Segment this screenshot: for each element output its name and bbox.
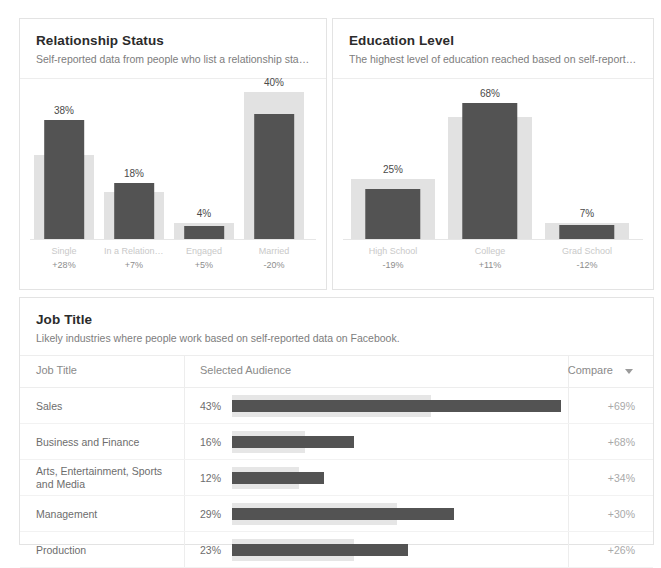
row-compare-value: +68% — [608, 436, 635, 448]
compare-delta-label: +5% — [174, 259, 234, 271]
plot-area: 25%68%7% — [333, 79, 653, 239]
x-axis-tick: In a Relationship+7% — [104, 245, 164, 271]
chevron-down-icon[interactable] — [625, 369, 633, 374]
education-level-card: Education Level The highest level of edu… — [332, 18, 654, 290]
category-label: High School — [351, 245, 435, 257]
insights-page: Relationship Status Self-reported data f… — [0, 0, 661, 568]
column-header-job-title[interactable]: Job Title — [36, 364, 77, 376]
category-label: Grad School — [545, 245, 629, 257]
card-header: Education Level The highest level of edu… — [333, 19, 653, 76]
card-header: Relationship Status Self-reported data f… — [20, 19, 326, 76]
card-subtitle: Likely industries where people work base… — [36, 332, 637, 345]
column-header-compare[interactable]: Compare — [568, 364, 613, 376]
row-compare-value: +34% — [608, 472, 635, 484]
bar-value-label: 25% — [383, 164, 403, 175]
category-label: College — [448, 245, 532, 257]
selected-audience-bar — [114, 183, 154, 239]
bar-value-label: 4% — [197, 208, 211, 219]
bar-wrap: 4% — [174, 79, 234, 239]
x-axis-labels: Single+28%In a Relationship+7%Engaged+5%… — [20, 245, 326, 279]
row-bar-track — [232, 431, 561, 453]
compare-delta-label: -20% — [244, 259, 304, 271]
card-subtitle: The highest level of education reached b… — [349, 53, 637, 66]
page-title: Education Level — [349, 33, 637, 49]
compare-delta-label: +28% — [34, 259, 94, 271]
table-row[interactable]: Production23%+26% — [20, 532, 653, 568]
table-row[interactable]: Management29%+30% — [20, 496, 653, 532]
compare-delta-label: +11% — [448, 259, 532, 271]
x-axis-tick: College+11% — [448, 245, 532, 271]
education-bar-chart: 25%68%7% High School-19%College+11%Grad … — [333, 79, 653, 275]
selected-audience-bar — [232, 400, 561, 412]
page-title: Job Title — [36, 312, 637, 328]
table-row[interactable]: Business and Finance16%+68% — [20, 424, 653, 460]
bar-group[interactable]: 68% — [448, 79, 532, 239]
bar-wrap: 25% — [351, 79, 435, 239]
bar-group[interactable]: 38% — [34, 79, 94, 239]
selected-audience-bar — [232, 436, 354, 448]
row-compare-value: +69% — [608, 400, 635, 412]
card-header: Job Title Likely industries where people… — [20, 298, 653, 355]
relationship-bar-chart: 38%18%4%40% Single+28%In a Relationship+… — [20, 79, 326, 275]
x-axis-tick: Married-20% — [244, 245, 304, 271]
row-bar-track — [232, 395, 561, 417]
x-axis-tick: Single+28% — [34, 245, 94, 271]
selected-audience-bar — [44, 120, 84, 239]
row-audience-percent: 23% — [200, 544, 221, 556]
row-audience-percent: 43% — [200, 400, 221, 412]
row-audience-percent: 12% — [200, 472, 221, 484]
row-bar-track — [232, 539, 561, 561]
row-job-title: Sales — [36, 400, 176, 413]
selected-audience-bar — [232, 544, 408, 556]
selected-audience-bar — [232, 472, 324, 484]
bar-value-label: 7% — [580, 208, 594, 219]
bar-wrap: 7% — [545, 79, 629, 239]
bar-group[interactable]: 7% — [545, 79, 629, 239]
bar-group[interactable]: 4% — [174, 79, 234, 239]
plot-area: 38%18%4%40% — [20, 79, 326, 239]
selected-audience-bar — [462, 103, 517, 239]
row-job-title: Business and Finance — [36, 436, 176, 449]
x-axis-tick: Grad School-12% — [545, 245, 629, 271]
category-label: Engaged — [174, 245, 234, 257]
page-title: Relationship Status — [36, 33, 310, 49]
row-compare-value: +30% — [608, 508, 635, 520]
compare-delta-label: -12% — [545, 259, 629, 271]
row-compare-value: +26% — [608, 544, 635, 556]
selected-audience-bar — [184, 226, 224, 239]
table-header-row: Job Title Selected Audience Compare — [20, 355, 653, 388]
bar-group[interactable]: 18% — [104, 79, 164, 239]
compare-delta-label: +7% — [104, 259, 164, 271]
bar-wrap: 68% — [448, 79, 532, 239]
bar-wrap: 40% — [244, 79, 304, 239]
selected-audience-bar — [365, 189, 420, 239]
job-title-table: Job Title Selected Audience Compare Sale… — [20, 355, 653, 568]
bar-value-label: 68% — [480, 88, 500, 99]
x-axis-line — [30, 239, 316, 240]
bar-value-label: 38% — [54, 105, 74, 116]
row-audience-percent: 29% — [200, 508, 221, 520]
x-axis-line — [343, 239, 643, 240]
bar-value-label: 40% — [264, 77, 284, 88]
table-row[interactable]: Arts, Entertainment, Sports and Media12%… — [20, 460, 653, 496]
selected-audience-bar — [254, 114, 294, 239]
column-header-selected-audience[interactable]: Selected Audience — [200, 364, 291, 376]
selected-audience-bar — [559, 225, 614, 239]
bar-group[interactable]: 40% — [244, 79, 304, 239]
category-label: Single — [34, 245, 94, 257]
compare-delta-label: -19% — [351, 259, 435, 271]
row-job-title: Production — [36, 544, 176, 557]
job-title-card: Job Title Likely industries where people… — [19, 297, 654, 545]
row-bar-track — [232, 467, 561, 489]
table-row[interactable]: Sales43%+69% — [20, 388, 653, 424]
row-bar-track — [232, 503, 561, 525]
category-label: In a Relationship — [104, 245, 164, 257]
bar-wrap: 38% — [34, 79, 94, 239]
bar-wrap: 18% — [104, 79, 164, 239]
bar-value-label: 18% — [124, 168, 144, 179]
bar-group[interactable]: 25% — [351, 79, 435, 239]
card-subtitle: Self-reported data from people who list … — [36, 53, 310, 66]
row-job-title: Arts, Entertainment, Sports and Media — [36, 465, 176, 491]
x-axis-tick: Engaged+5% — [174, 245, 234, 271]
table-body: Sales43%+69%Business and Finance16%+68%A… — [20, 388, 653, 568]
